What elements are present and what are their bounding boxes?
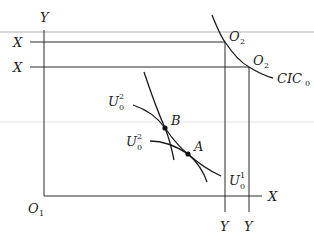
origin-o1-label: O	[28, 201, 39, 216]
u-lower-sub: 0	[240, 182, 245, 191]
edgeworth-box-diagram: Y X X X Y Y O 1 O 2 O 2 CIC 0 U 2 0 U 2 …	[0, 0, 314, 239]
x-label-upper: X	[12, 35, 23, 50]
cic-sub: 0	[305, 79, 310, 88]
y-label-bottom-1: Y	[220, 219, 230, 234]
origin-o2-lower-label: O	[253, 53, 264, 68]
origin-o1-sub: 1	[39, 209, 44, 218]
point-a	[185, 151, 190, 156]
x-label-lower: X	[12, 60, 23, 75]
u-upper-sub: 0	[119, 103, 124, 112]
origin-o2-lower-sub: 2	[264, 61, 269, 70]
y-label-bottom-2: Y	[244, 219, 254, 234]
origin-o2-upper-label: O	[229, 29, 240, 44]
point-b-label: B	[170, 113, 181, 128]
u-lower-sup: 1	[240, 171, 245, 180]
point-a-label: A	[193, 139, 203, 154]
origin-o2-upper-sub: 2	[240, 37, 245, 46]
u-middle-sup: 2	[137, 132, 142, 141]
y-label-top: Y	[40, 10, 50, 25]
indifference-curve-steep	[144, 72, 174, 160]
u-upper-sup: 2	[119, 92, 124, 101]
cic-label: CIC	[277, 71, 302, 86]
x-label-bottom: X	[267, 189, 278, 204]
u-middle-sub: 0	[137, 143, 142, 152]
point-b	[162, 125, 167, 130]
